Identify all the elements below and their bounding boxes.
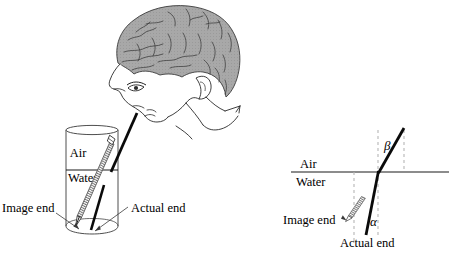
glass-top-rim [66, 125, 118, 134]
neck-and-shoulder [168, 97, 240, 139]
figure-svg: Air Water Image end Actual end [0, 0, 449, 258]
angle-beta-label: β [383, 138, 391, 153]
ear [196, 76, 211, 99]
left-actual-end-label: Actual end [131, 201, 186, 215]
refracted-ray-air-segment [379, 128, 405, 173]
image-end-pencil-barrel [348, 197, 365, 219]
figure-canvas: Air Water Image end Actual end [0, 0, 449, 258]
left-image-end-label: Image end [2, 201, 55, 215]
right-image-end-arrowhead [341, 215, 347, 220]
observer-head-group [109, 6, 240, 139]
ray-geometry-diagram: Air Water β α Image end Actual end [283, 128, 449, 250]
right-actual-end-label: Actual end [340, 236, 395, 250]
right-image-end-label: Image end [283, 213, 336, 227]
glass-air-label: Air [70, 146, 88, 160]
image-end-pencil-tip [346, 197, 366, 222]
right-water-label: Water [296, 175, 326, 189]
right-air-label: Air [300, 157, 318, 171]
angle-alpha-label: α [370, 214, 378, 229]
